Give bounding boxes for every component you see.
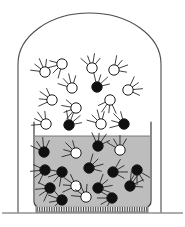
particle-body — [41, 119, 51, 129]
particle-body — [119, 119, 129, 129]
particle-body — [132, 165, 142, 175]
particle-body — [107, 193, 117, 203]
particle-body — [40, 165, 50, 175]
particle-body — [71, 103, 81, 113]
particle-body — [125, 181, 135, 191]
particle-body — [87, 63, 97, 73]
particle-body — [105, 95, 115, 105]
particle-body — [71, 148, 81, 158]
particle-body — [115, 145, 125, 155]
particle-body — [84, 163, 94, 173]
figure-canvas — [0, 0, 185, 227]
particle-body — [57, 195, 67, 205]
particle-body — [93, 141, 103, 151]
particle-body — [57, 59, 67, 69]
particle-body — [47, 95, 57, 105]
particle-body — [92, 82, 102, 92]
particle-body — [40, 67, 50, 77]
particle-body — [109, 65, 119, 75]
particle-body — [39, 147, 49, 157]
particle-body — [81, 192, 91, 202]
particle-body — [67, 83, 77, 93]
particle-body — [108, 167, 118, 177]
particle-body — [45, 183, 55, 193]
particle-body — [96, 119, 106, 129]
particle-body — [57, 167, 67, 177]
particle-model-figure — [0, 0, 185, 227]
heating-base — [36, 206, 148, 212]
particle-body — [123, 85, 133, 95]
particle-body — [64, 120, 74, 130]
